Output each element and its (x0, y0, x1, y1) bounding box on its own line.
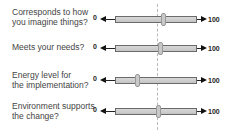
question-line-1: Meets your needs? (12, 42, 84, 52)
max-label: 100 (208, 16, 220, 23)
max-label: 100 (208, 77, 220, 84)
max-label: 100 (208, 108, 220, 115)
question-line-1: Energy level for (12, 70, 89, 80)
question-label: Meets your needs? (12, 42, 84, 52)
slider-row-corresponds: Corresponds to how you imagine things? 0… (0, 7, 234, 31)
slider-row-needs: Meets your needs? 0 100 (0, 38, 234, 62)
question-line-2: you imagine things? (12, 17, 88, 27)
arrow-right-icon (201, 16, 207, 22)
question-line-2: the change? (12, 111, 95, 121)
slider-handle[interactable] (156, 105, 161, 118)
arrow-left-line (104, 111, 115, 112)
slider-handle[interactable] (135, 74, 140, 87)
question-label: Energy level for the implementation? (12, 70, 89, 90)
slider-handle[interactable] (161, 13, 166, 26)
arrow-left-line (104, 80, 115, 81)
arrow-left-line (104, 19, 115, 20)
arrow-right-icon (201, 45, 207, 51)
slider-row-energy: Energy level for the implementation? 0 1… (0, 70, 234, 94)
max-label: 100 (208, 45, 220, 52)
min-label: 0 (93, 75, 97, 82)
min-label: 0 (93, 106, 97, 113)
arrow-right-icon (201, 108, 207, 114)
arrow-right-icon (201, 77, 207, 83)
question-line-1: Corresponds to how (12, 7, 88, 17)
min-label: 0 (93, 14, 97, 21)
question-label: Corresponds to how you imagine things? (12, 7, 88, 27)
slider-row-environment: Environment supports the change? 0 100 (0, 101, 234, 125)
question-label: Environment supports the change? (12, 101, 95, 121)
question-line-1: Environment supports (12, 101, 95, 111)
arrow-left-line (104, 48, 115, 49)
slider-track[interactable] (115, 16, 197, 23)
question-line-2: the implementation? (12, 80, 89, 90)
slider-track[interactable] (115, 77, 197, 84)
min-label: 0 (93, 43, 97, 50)
slider-handle[interactable] (158, 42, 163, 55)
slider-track[interactable] (115, 45, 197, 52)
